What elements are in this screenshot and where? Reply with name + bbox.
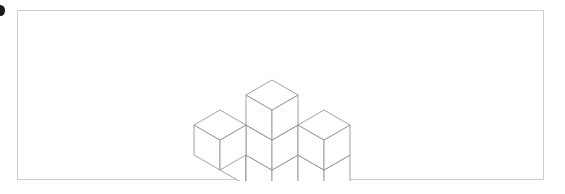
isometric-cube-stack-diagram	[18, 11, 545, 181]
figure-frame	[17, 10, 544, 180]
bullet-dot-clipped-icon	[0, 5, 5, 16]
page-root	[0, 0, 565, 194]
